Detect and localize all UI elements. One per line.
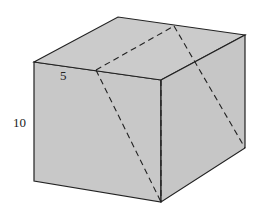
depth-label: 5 — [60, 68, 67, 83]
prism-diagram: 5 10 — [0, 0, 259, 213]
height-label: 10 — [13, 115, 26, 130]
front-face — [34, 62, 161, 202]
